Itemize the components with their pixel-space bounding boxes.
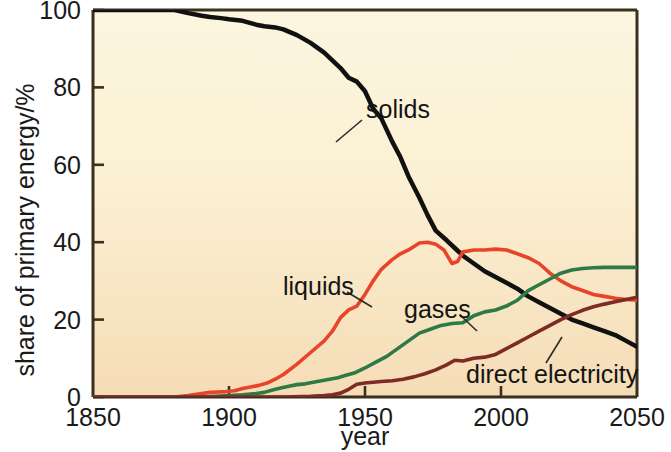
x-tick-label: 2050 bbox=[609, 403, 665, 431]
series-label-solids: solids bbox=[366, 95, 430, 123]
x-axis-title: year bbox=[341, 422, 390, 450]
series-label-gases: gases bbox=[404, 295, 471, 323]
y-tick-label: 100 bbox=[39, 0, 81, 24]
x-tick-label: 1900 bbox=[201, 403, 257, 431]
x-tick-label: 2000 bbox=[473, 403, 529, 431]
energy-share-chart-figure: 020406080100 18501900195020002050 share … bbox=[0, 0, 671, 452]
y-axis-title: share of primary energy/% bbox=[11, 83, 39, 376]
y-tick-label: 20 bbox=[53, 306, 81, 334]
y-tick-label: 80 bbox=[53, 73, 81, 101]
chart-svg: 020406080100 18501900195020002050 share … bbox=[0, 0, 671, 452]
x-tick-label: 1850 bbox=[65, 403, 121, 431]
series-label-direct-electricity: direct electricity bbox=[466, 360, 639, 388]
y-tick-label: 40 bbox=[53, 228, 81, 256]
y-tick-label: 60 bbox=[53, 151, 81, 179]
series-label-liquids: liquids bbox=[283, 272, 354, 300]
plot-area-background bbox=[93, 10, 637, 397]
